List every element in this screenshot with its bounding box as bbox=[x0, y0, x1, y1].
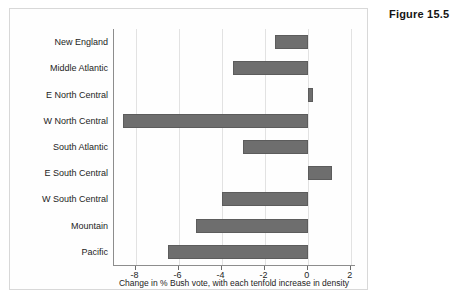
gridline-x-0 bbox=[136, 29, 137, 265]
figure-frame: New EnglandMiddle AtlanticE North Centra… bbox=[9, 8, 368, 290]
y-tick-label: W South Central bbox=[42, 194, 113, 204]
y-tick-label: W North Central bbox=[43, 116, 113, 126]
bar bbox=[308, 88, 313, 102]
bar bbox=[196, 219, 308, 233]
x-axis-title: Change in % Bush vote, with each tenfold… bbox=[113, 278, 355, 288]
gridline-x-1 bbox=[179, 29, 180, 265]
y-tick-label: South Atlantic bbox=[53, 142, 113, 152]
y-tick-label: Middle Atlantic bbox=[50, 63, 113, 73]
y-tick-label: Pacific bbox=[81, 247, 113, 257]
figure-caption: Figure 15.5 bbox=[389, 8, 449, 20]
bar bbox=[243, 140, 308, 154]
plot-area bbox=[113, 29, 355, 266]
y-tick-label: Mountain bbox=[71, 221, 113, 231]
y-tick-label: E North Central bbox=[46, 90, 113, 100]
y-axis-category-labels: New EnglandMiddle AtlanticE North Centra… bbox=[9, 29, 113, 266]
y-tick-label: New England bbox=[54, 37, 113, 47]
gridline-x-4 bbox=[308, 29, 309, 265]
y-tick-label: E South Central bbox=[44, 168, 113, 178]
bar bbox=[275, 35, 307, 49]
bar bbox=[168, 245, 308, 259]
bar bbox=[222, 192, 308, 206]
bar bbox=[123, 114, 308, 128]
bar bbox=[233, 61, 307, 75]
bar bbox=[308, 166, 333, 180]
gridline-x-5 bbox=[351, 29, 352, 265]
